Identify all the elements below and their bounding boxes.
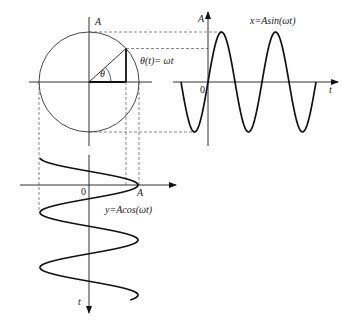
projection-lines <box>39 32 223 211</box>
cosine-origin-label: 0 <box>81 186 86 197</box>
angle-arc <box>105 67 111 82</box>
sine-axis-label: A <box>197 13 205 24</box>
sine-panel: A x=Asin(ωt) 0 t <box>173 12 338 146</box>
circle-axis-label: A <box>94 16 102 27</box>
cosine-equation: y=Acos(ωt) <box>104 204 153 216</box>
cosine-time-label: t <box>78 296 81 307</box>
cosine-panel: 0 A y=Acos(ωt) t <box>20 155 176 313</box>
diagram-canvas: A θ θ(t)= ωt A x=Asin(ωt) 0 t <box>0 0 351 321</box>
phasor-diagram: A θ θ(t)= ωt A x=Asin(ωt) 0 t <box>0 0 351 321</box>
rotating-radius <box>89 49 126 83</box>
sine-origin-label: 0 <box>200 84 205 95</box>
circle-panel: A θ θ(t)= ωt <box>29 16 174 146</box>
sine-equation: x=Asin(ωt) <box>249 15 296 27</box>
theta-label: θ <box>100 68 105 79</box>
cosine-axis-end-label: A <box>136 187 144 198</box>
theta-equation: θ(t)= ωt <box>140 55 174 67</box>
sine-time-label: t <box>329 84 332 95</box>
